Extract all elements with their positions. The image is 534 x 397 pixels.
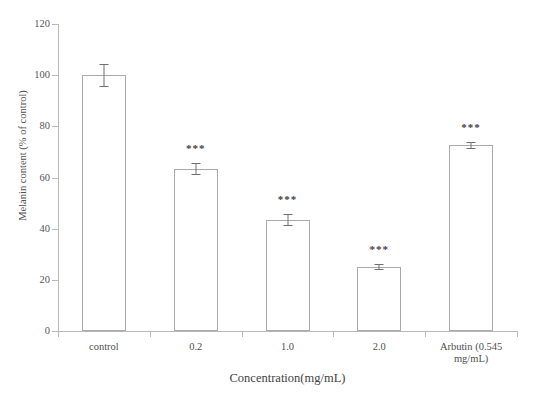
x-axis-tick-label: Arbutin (0.545mg/mL) — [425, 341, 517, 365]
x-axis-tick-label-line: 0.2 — [150, 341, 242, 353]
x-axis-tick — [58, 331, 59, 337]
error-bar-cap-lower — [99, 86, 108, 87]
x-axis-tick-label-line: 2.0 — [333, 341, 425, 353]
y-axis-tick-label: 120 — [4, 19, 50, 29]
bar — [449, 145, 493, 331]
y-axis-title: Melanin content (% of control) — [17, 41, 28, 271]
bar — [266, 220, 310, 331]
bar-group: *** — [357, 24, 401, 331]
y-axis-tick-label: 20 — [4, 275, 50, 285]
x-axis-tick-label: 0.2 — [150, 341, 242, 353]
x-axis-tick — [242, 331, 243, 337]
x-axis-tick-label: 2.0 — [333, 341, 425, 353]
x-axis-tick-label: control — [58, 341, 150, 353]
plot-area: ************ — [58, 24, 517, 331]
bar-group: *** — [449, 24, 493, 331]
x-axis-tick — [517, 331, 518, 337]
error-bar-line — [195, 163, 196, 173]
y-axis-tick-label: 0 — [4, 326, 50, 336]
bar — [82, 75, 126, 331]
x-axis-tick-label: 1.0 — [242, 341, 334, 353]
significance-marker: *** — [357, 243, 401, 255]
error-bar-cap-upper — [283, 214, 292, 215]
error-bar-cap-upper — [375, 264, 384, 265]
significance-marker: *** — [449, 121, 493, 133]
error-bar-cap-lower — [191, 174, 200, 175]
bar-group: *** — [266, 24, 310, 331]
x-axis-tick-label-line: control — [58, 341, 150, 353]
melanin-content-bar-chart: 020406080100120 Melanin content (% of co… — [0, 0, 534, 397]
error-bar-line — [103, 64, 104, 85]
error-bar-cap-upper — [99, 64, 108, 65]
error-bar-cap-lower — [467, 148, 476, 149]
bar — [174, 169, 218, 331]
x-axis-title: Concentration(mg/mL) — [58, 371, 517, 386]
bar-group — [82, 24, 126, 331]
x-axis-tick — [425, 331, 426, 337]
bar-group: *** — [174, 24, 218, 331]
x-axis-tick — [150, 331, 151, 337]
x-axis-line — [58, 331, 517, 332]
error-bar-cap-lower — [283, 225, 292, 226]
error-bar-cap-upper — [467, 142, 476, 143]
significance-marker: *** — [174, 142, 218, 154]
x-axis-tick-label-line: mg/mL) — [425, 353, 517, 365]
x-axis-tick — [333, 331, 334, 337]
error-bar-cap-lower — [375, 269, 384, 270]
significance-marker: *** — [266, 193, 310, 205]
x-axis-tick-label-line: 1.0 — [242, 341, 334, 353]
error-bar-cap-upper — [191, 163, 200, 164]
bar — [357, 267, 401, 331]
x-axis-tick-label-line: Arbutin (0.545 — [425, 341, 517, 353]
error-bar-line — [287, 214, 288, 225]
